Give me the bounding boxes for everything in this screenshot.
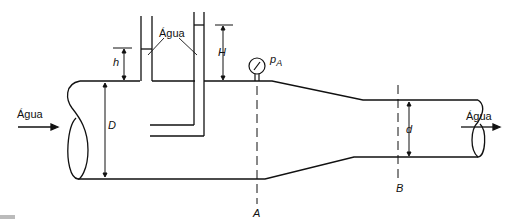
section-lines [257,85,398,204]
gauge-label: pA [269,53,282,68]
inlet-label: Água [17,108,44,120]
water-label-pointers [148,38,197,55]
section-a-label: A [252,207,260,219]
outlet-label: Água [466,110,493,122]
corner-mark [0,215,15,219]
pipe-body [68,81,485,179]
piezometer-height-label: h [113,56,119,68]
small-diameter-label: d [406,123,413,135]
pressure-gauge-icon [249,58,265,81]
inlet-arrow-icon [18,124,58,130]
large-diameter-label: D [108,119,116,131]
section-b-label: B [396,182,403,194]
venturi-pipe-diagram: h H Água pA A B D d Água Água [0,0,513,220]
piezometer-tube [141,16,152,81]
D-dimension [103,83,107,177]
tube-fluid-label: Água [159,27,186,39]
pitot-height-label: H [218,46,226,58]
